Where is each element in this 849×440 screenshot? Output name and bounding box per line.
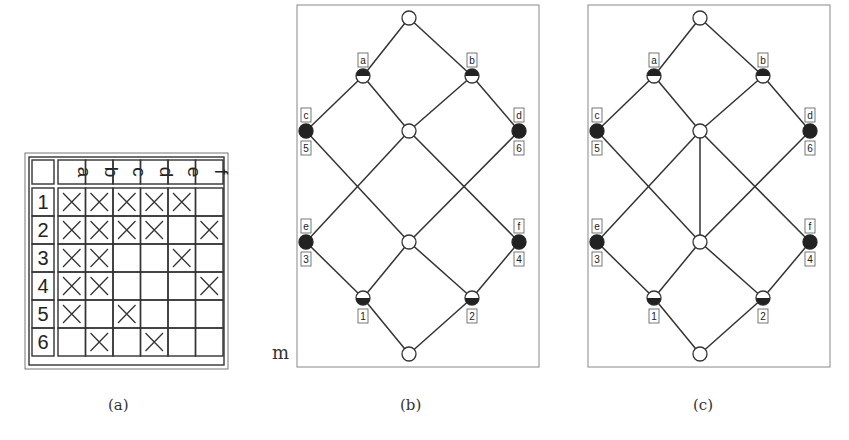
caption-a: (a) xyxy=(108,396,129,414)
label-b: b xyxy=(467,53,477,67)
cross-mark xyxy=(91,333,109,351)
cross-mark xyxy=(173,193,191,211)
label-a: a xyxy=(649,53,659,67)
lattice-edge xyxy=(763,242,810,298)
lattice-frame xyxy=(588,5,830,367)
cross-mark xyxy=(146,333,164,351)
svg-text:c: c xyxy=(304,110,309,121)
lattice-edge xyxy=(597,76,654,131)
cell-6c xyxy=(113,328,141,356)
lattice-edge xyxy=(763,76,810,131)
svg-text:f: f xyxy=(211,169,229,175)
caption-b: (b) xyxy=(400,396,421,414)
lattice-edge xyxy=(700,76,763,131)
lattice-edge xyxy=(363,298,409,354)
svg-text:a: a xyxy=(360,55,366,66)
label-b: b xyxy=(758,53,768,67)
cross-mark xyxy=(63,221,81,239)
node-bot xyxy=(693,347,707,361)
svg-text:4: 4 xyxy=(516,254,522,265)
cross-mark xyxy=(146,221,164,239)
cross-mark xyxy=(91,221,109,239)
node-c xyxy=(590,124,604,138)
node-a xyxy=(647,69,661,83)
cross-mark xyxy=(201,221,219,239)
side-label-m: m xyxy=(272,342,289,363)
label-1: 1 xyxy=(358,309,368,323)
panel-c-lattice: abcd56ef3412 xyxy=(587,4,831,372)
node-mid1 xyxy=(402,124,416,138)
lattice-edge xyxy=(654,18,700,76)
row-header-1: 1 xyxy=(37,191,48,213)
label-f: f xyxy=(514,219,524,233)
lattice-edge xyxy=(700,18,763,76)
label-1: 1 xyxy=(649,309,659,323)
label-2: 2 xyxy=(467,309,477,323)
concept-lattice-b: abcd56ef3412 xyxy=(296,4,540,368)
svg-text:a: a xyxy=(651,55,657,66)
row-header-2: 2 xyxy=(37,219,48,241)
column-header-a: a xyxy=(74,167,95,178)
lattice-edge xyxy=(472,76,519,131)
row-header-5: 5 xyxy=(37,303,48,325)
cell-3f xyxy=(196,244,224,272)
incidence-table: abcdef123456 xyxy=(24,152,229,370)
cross-mark xyxy=(63,249,81,267)
cross-mark xyxy=(146,193,164,211)
node-n1 xyxy=(356,291,370,305)
svg-text:e: e xyxy=(303,221,309,232)
svg-text:d: d xyxy=(516,110,522,121)
lattice-edge xyxy=(409,298,472,354)
svg-text:c: c xyxy=(129,167,150,177)
svg-text:1: 1 xyxy=(651,311,657,322)
svg-text:e: e xyxy=(594,221,600,232)
svg-text:2: 2 xyxy=(760,311,766,322)
caption-c: (c) xyxy=(693,396,713,414)
svg-text:e: e xyxy=(184,167,205,178)
lattice-edge xyxy=(654,298,700,354)
node-n1 xyxy=(647,291,661,305)
cross-mark xyxy=(118,305,136,323)
node-f xyxy=(512,235,526,249)
cell-3d xyxy=(141,244,169,272)
svg-text:d: d xyxy=(807,110,813,121)
cross-mark xyxy=(91,277,109,295)
label-3: 3 xyxy=(592,252,602,266)
cell-4e xyxy=(168,272,196,300)
label-4: 4 xyxy=(805,252,815,266)
cell-5e xyxy=(168,300,196,328)
cell-4c xyxy=(113,272,141,300)
node-a xyxy=(356,69,370,83)
lattice-edge xyxy=(654,76,700,131)
cross-mark xyxy=(63,305,81,323)
node-f xyxy=(803,235,817,249)
lattice-edge xyxy=(363,18,409,76)
svg-text:b: b xyxy=(101,167,122,178)
node-c xyxy=(299,124,313,138)
svg-text:f: f xyxy=(809,221,812,232)
node-mid1 xyxy=(693,124,707,138)
cell-2e xyxy=(168,216,196,244)
column-header-b: b xyxy=(101,167,122,178)
cell-6f xyxy=(196,328,224,356)
column-header-c: c xyxy=(129,167,150,177)
node-e xyxy=(590,235,604,249)
label-4: 4 xyxy=(514,252,524,266)
cross-mark xyxy=(91,249,109,267)
lattice-edge xyxy=(363,242,409,298)
label-d: d xyxy=(805,108,815,122)
lattice-edge xyxy=(472,242,519,298)
lattice-edge xyxy=(306,76,363,131)
node-b xyxy=(465,69,479,83)
cell-6a xyxy=(58,328,86,356)
cell-5d xyxy=(141,300,169,328)
cell-1f xyxy=(196,188,224,216)
cross-mark xyxy=(201,277,219,295)
node-top xyxy=(402,11,416,25)
svg-text:5: 5 xyxy=(594,143,600,154)
label-c: c xyxy=(592,108,602,122)
svg-text:b: b xyxy=(760,55,766,66)
svg-text:1: 1 xyxy=(360,311,366,322)
lattice-edge xyxy=(597,242,654,298)
cross-mark xyxy=(118,221,136,239)
